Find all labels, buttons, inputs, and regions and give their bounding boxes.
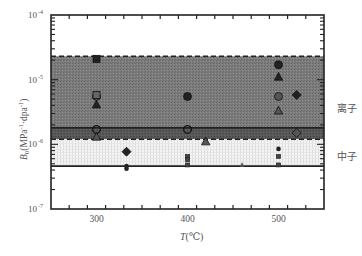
marker-small-square xyxy=(185,158,189,162)
y-tick-label: 10 xyxy=(28,204,38,214)
y-tick-exponent: -7 xyxy=(38,203,43,209)
y-tick-exponent: -6 xyxy=(38,138,43,144)
marker-filled-circle xyxy=(275,61,283,69)
marker-filled-circle xyxy=(184,92,192,100)
marker-filled-square xyxy=(93,55,100,62)
x-tick-label: 300 xyxy=(89,214,104,224)
marker-small-square xyxy=(185,163,189,167)
y-tick-label: 10 xyxy=(28,10,38,20)
x-tick-label: 500 xyxy=(271,214,286,224)
marker-small-square xyxy=(276,154,280,158)
region-neutron xyxy=(51,139,324,166)
region-label-neutron: 中子 xyxy=(337,150,357,162)
y-tick-label: 10 xyxy=(28,139,38,149)
y-tick-exponent: -5 xyxy=(38,74,43,80)
region-ion xyxy=(51,56,324,128)
marker-small-circle xyxy=(124,166,129,171)
region-label-ion: 离子 xyxy=(337,102,357,114)
x-axis-label: T(℃) xyxy=(180,231,203,243)
marker-gray-circle xyxy=(275,92,283,100)
y-axis-label: B0(MPa-1·dpa-1) xyxy=(17,99,31,160)
chart-figure: 30040050010-710-610-510-4 离子 中子 T(℃) B0(… xyxy=(0,0,362,256)
marker-small-circle xyxy=(276,147,281,152)
y-tick-label: 10 xyxy=(28,75,38,85)
x-tick-label: 400 xyxy=(180,214,195,224)
y-tick-exponent: -4 xyxy=(38,9,43,15)
regions-layer xyxy=(51,56,324,166)
marker-gray-square xyxy=(93,91,100,98)
marker-small-square xyxy=(276,163,280,167)
